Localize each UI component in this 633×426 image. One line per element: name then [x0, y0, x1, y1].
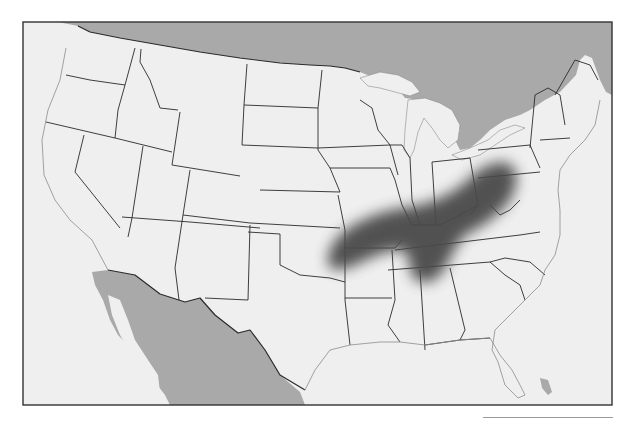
caption-rule: [483, 417, 613, 418]
us-map: [0, 0, 633, 426]
